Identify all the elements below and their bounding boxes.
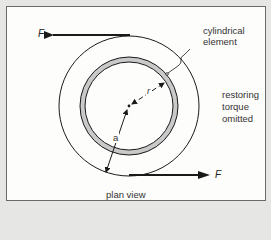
restoring-torque-note: restoring torque omitted [222, 89, 259, 125]
force-arrowhead-bottom [198, 171, 210, 179]
center-point [128, 105, 131, 108]
radius-r-label: r [146, 86, 151, 97]
radius-a-label: a [112, 132, 119, 143]
force-label-top: F [38, 28, 44, 39]
torque-note-line2: torque [222, 101, 259, 113]
cylindrical-element-label-line2: element [203, 36, 245, 47]
torque-note-line1: restoring [222, 89, 259, 101]
cylindrical-element-label-line1: cylindrical [203, 25, 245, 36]
cylindrical-element-label: cylindrical element [203, 25, 245, 47]
leader-tip-marker [166, 73, 169, 76]
figure-caption-strip [0, 202, 271, 211]
cylinder-leader-line [168, 49, 190, 73]
plan-view-caption: plan view [106, 189, 146, 200]
force-label-bottom: F [215, 169, 221, 180]
torque-note-line3: omitted [222, 113, 259, 125]
